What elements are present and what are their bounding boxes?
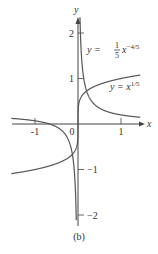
fraction-denominator: 5 (115, 51, 119, 60)
figure-caption: (b) (73, 231, 85, 243)
label-derivative-x: x−4/5 (121, 43, 140, 55)
curve-derivative-left (11, 118, 76, 220)
x-tick-label: -1 (31, 126, 39, 137)
curve-derivative-right (80, 17, 140, 117)
x-tick-label: 0 (70, 126, 75, 137)
y-axis-label: y (73, 4, 79, 15)
y-tick-label: −1 (87, 164, 98, 175)
y-tick-label: 2 (69, 28, 74, 39)
function-graph: -101−2−112xyy = x1/5y = 15x−4/5(b) (0, 0, 158, 254)
y-tick-label: 1 (69, 73, 74, 84)
y-tick-label: −2 (87, 210, 98, 221)
fraction-numerator: 1 (115, 41, 119, 50)
x-axis-arrow-icon (139, 122, 145, 127)
x-axis-label: x (146, 118, 152, 129)
label-x-one-fifth: y = x1/5 (109, 80, 140, 92)
x-tick-label: 1 (119, 126, 124, 137)
label-derivative: y = (86, 44, 101, 55)
